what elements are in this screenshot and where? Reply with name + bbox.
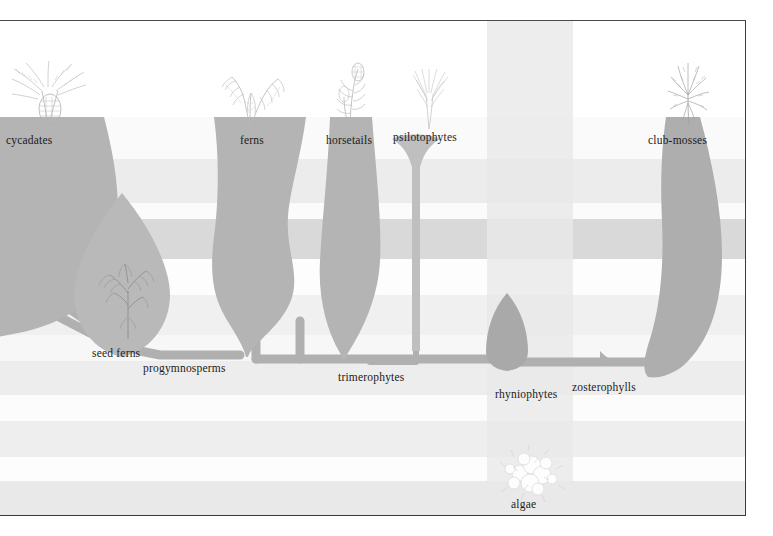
algae-sketch	[494, 443, 570, 505]
label-seed-ferns: seed ferns	[92, 347, 140, 359]
spindle-horsetails	[320, 117, 381, 361]
spindle-psilotophytes	[392, 135, 440, 352]
spindle-ferns	[212, 117, 306, 357]
label-psilotophytes: psilotophytes	[393, 131, 457, 143]
figure-root: cycadates ferns horsetails psilotophytes…	[0, 0, 773, 536]
label-progymnosperms: progymnosperms	[143, 362, 226, 374]
label-trimerophytes: trimerophytes	[338, 371, 404, 383]
club-moss-sketch	[662, 57, 716, 127]
psilotophyte-sketch	[404, 67, 454, 131]
branch-rhyniophytes-to-trimerophytes	[256, 353, 507, 359]
spindle-diagram-plot: cycadates ferns horsetails psilotophytes…	[0, 21, 746, 516]
label-cycadates: cycadates	[6, 134, 53, 146]
label-club-mosses: club-mosses	[648, 134, 707, 146]
label-rhyniophytes: rhyniophytes	[495, 388, 557, 400]
label-algae: algae	[511, 498, 536, 510]
spindle-club-mosses	[644, 117, 722, 378]
spindle-rhyniophytes	[486, 293, 528, 371]
label-zosterophylls: zosterophylls	[572, 381, 636, 393]
seed-fern-sketch	[94, 259, 162, 341]
cycad-sketch	[8, 57, 88, 133]
label-ferns: ferns	[240, 134, 264, 146]
label-horsetails: horsetails	[326, 134, 372, 146]
horsetail-sketch	[330, 63, 374, 133]
fern-sketch	[214, 67, 286, 131]
